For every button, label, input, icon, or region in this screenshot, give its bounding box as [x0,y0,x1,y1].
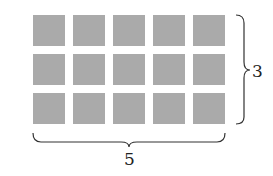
column-count-label: 5 [124,149,135,169]
bottom-brace-icon [33,133,225,147]
braces [0,0,273,176]
right-brace-icon [236,15,250,124]
row-count-label: 3 [252,61,263,81]
